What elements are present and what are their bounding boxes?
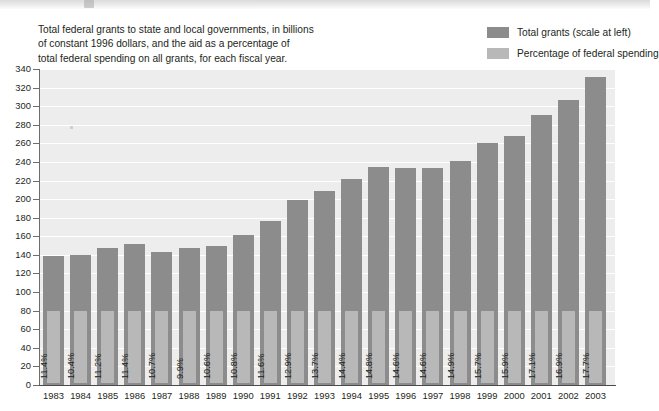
plot-area: 11.4%10.4%11.2%11.4%10.7%9.9%10.6%10.8%1… — [40, 69, 615, 385]
y-axis-tick-label: 220 — [3, 176, 31, 185]
y-axis-tick-label: 80 — [3, 306, 31, 315]
y-axis-tick-mark — [33, 273, 39, 274]
y-axis-tick-label: 140 — [3, 250, 31, 259]
y-axis-tick-label: 320 — [3, 83, 31, 92]
y-axis-tick-mark — [33, 181, 39, 182]
gridline — [40, 69, 615, 70]
bar-percentage-label: 14.9% — [447, 353, 456, 379]
gridline — [40, 106, 615, 107]
y-axis-tick-label: 100 — [3, 287, 31, 296]
bar-group[interactable]: 17.7% — [585, 77, 606, 385]
bar-group[interactable]: 10.7% — [151, 252, 172, 385]
bar-percentage-band[interactable] — [345, 311, 358, 383]
y-axis-tick-mark — [33, 366, 39, 367]
paper-speck-b — [183, 341, 186, 343]
bar-group[interactable]: 14.6% — [395, 168, 416, 385]
legend-swatch-total-grants — [487, 27, 509, 38]
bar-group[interactable]: 15.7% — [477, 143, 498, 385]
gridline — [40, 125, 615, 126]
bar-group[interactable]: 11.4% — [43, 256, 64, 385]
bar-percentage-label: 14.6% — [419, 353, 428, 379]
bar-group[interactable]: 10.8% — [233, 235, 254, 385]
bar-group[interactable]: 11.4% — [124, 244, 145, 385]
y-axis-line — [39, 69, 40, 386]
bar-percentage-label: 17.1% — [528, 353, 537, 379]
bar-group[interactable]: 9.9% — [179, 248, 200, 385]
bar-percentage-label: 10.8% — [230, 353, 239, 379]
caption-line-2: of constant 1996 dollars, and the aid as… — [38, 37, 368, 51]
bar-percentage-band[interactable] — [372, 311, 385, 383]
bar-percentage-band[interactable] — [426, 311, 439, 383]
y-axis-tick-label: 40 — [3, 343, 31, 352]
y-axis-tick-labels: 0204060801001201401601802002202402602803… — [0, 0, 31, 411]
y-axis-tick-mark — [33, 348, 39, 349]
chart-caption: Total federal grants to state and local … — [38, 23, 368, 66]
paper-speck-a — [70, 126, 73, 129]
bar-group[interactable]: 14.9% — [450, 161, 471, 385]
gridline — [40, 162, 615, 163]
y-axis-tick-mark — [33, 311, 39, 312]
y-axis-tick-label: 280 — [3, 120, 31, 129]
bar-group[interactable]: 15.9% — [504, 136, 525, 385]
y-axis-tick-mark — [33, 125, 39, 126]
bar-percentage-label: 14.8% — [365, 353, 374, 379]
bar-group[interactable]: 11.2% — [97, 248, 118, 385]
bar-percentage-label: 16.9% — [555, 353, 564, 379]
bar-percentage-band[interactable] — [128, 311, 141, 383]
y-axis-tick-label: 300 — [3, 101, 31, 110]
gridline — [40, 143, 615, 144]
bar-percentage-band[interactable] — [155, 311, 168, 383]
bar-group[interactable]: 10.4% — [70, 255, 91, 385]
y-axis-tick-mark — [33, 199, 39, 200]
bar-percentage-label: 15.9% — [501, 353, 510, 379]
bar-group[interactable]: 11.6% — [260, 221, 281, 385]
bar-group[interactable]: 14.6% — [422, 168, 443, 385]
bar-percentage-label: 11.6% — [257, 354, 266, 379]
legend-swatch-percentage — [487, 48, 509, 59]
y-axis-tick-label: 20 — [3, 361, 31, 370]
bar-group[interactable]: 14.8% — [368, 167, 389, 385]
bar-percentage-label: 11.4% — [40, 354, 49, 379]
bar-group[interactable]: 17.1% — [531, 115, 552, 385]
bar-percentage-label: 11.4% — [121, 354, 130, 379]
y-axis-tick-label: 60 — [3, 324, 31, 333]
bar-group[interactable]: 12.9% — [287, 200, 308, 385]
legend-label-total-grants: Total grants (scale at left) — [517, 27, 631, 38]
scan-artifact-strip — [0, 0, 650, 9]
y-axis-tick-mark — [33, 292, 39, 293]
y-axis-tick-mark — [33, 255, 39, 256]
y-axis-tick-label: 200 — [3, 194, 31, 203]
y-axis-tick-mark — [33, 236, 39, 237]
bar-percentage-label: 9.9% — [176, 358, 185, 379]
gridline — [40, 181, 615, 182]
legend-item-percentage: Percentage of federal spending — [487, 45, 659, 62]
y-axis-tick-label: 120 — [3, 268, 31, 277]
y-axis-tick-mark — [33, 69, 39, 70]
caption-line-1: Total federal grants to state and local … — [38, 23, 368, 37]
gridline — [40, 88, 615, 89]
bar-percentage-band[interactable] — [101, 311, 114, 383]
y-axis-tick-mark — [33, 162, 39, 163]
bar-group[interactable]: 13.7% — [314, 191, 335, 385]
chart-legend: Total grants (scale at left) Percentage … — [487, 24, 659, 66]
y-axis-tick-label: 340 — [3, 64, 31, 73]
y-axis-tick-mark — [33, 106, 39, 107]
y-axis-tick-mark — [33, 385, 39, 386]
x-axis-line — [39, 385, 616, 386]
legend-item-total-grants: Total grants (scale at left) — [487, 24, 659, 41]
bar-group[interactable]: 16.9% — [558, 100, 579, 385]
y-axis-tick-mark — [33, 143, 39, 144]
bar-group[interactable]: 10.6% — [206, 246, 227, 385]
bar-percentage-label: 14.6% — [392, 353, 401, 379]
bar-percentage-label: 11.2% — [94, 354, 103, 379]
bar-percentage-label: 13.7% — [311, 353, 320, 379]
y-axis-tick-mark — [33, 218, 39, 219]
bar-percentage-band[interactable] — [74, 311, 87, 383]
x-axis-tick-label: 2003 — [579, 391, 613, 401]
legend-label-percentage: Percentage of federal spending — [517, 48, 659, 59]
y-axis-tick-label: 180 — [3, 213, 31, 222]
bar-percentage-label: 10.7% — [148, 353, 157, 379]
bar-percentage-label: 14.4% — [338, 353, 347, 379]
bar-percentage-band[interactable] — [399, 311, 412, 383]
bar-group[interactable]: 14.4% — [341, 179, 362, 385]
